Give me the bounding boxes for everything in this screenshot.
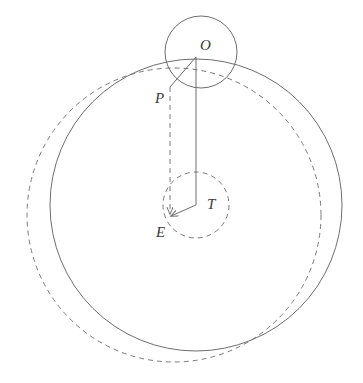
vertex-label-p: P <box>155 91 164 106</box>
diagram-canvas <box>0 0 363 383</box>
vertex-label-e: E <box>156 225 165 240</box>
geometry-diagram: O P T E <box>0 0 363 383</box>
segment-o-to-p <box>170 57 196 87</box>
vertex-label-o: O <box>200 38 211 53</box>
arrow-t-to-e <box>171 205 196 216</box>
vertex-label-t: T <box>207 197 215 212</box>
